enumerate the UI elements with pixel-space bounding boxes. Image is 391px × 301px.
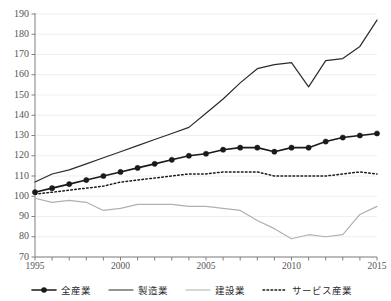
legend-item-2[interactable]: 建設業: [185, 283, 245, 297]
y-axis-tick-label: 110: [3, 170, 29, 181]
series-line-3: [35, 172, 377, 194]
y-axis-tick-label: 80: [3, 230, 29, 241]
series-marker-0: [84, 177, 89, 182]
y-axis-tick-label: 190: [3, 8, 29, 19]
series-marker-0: [135, 165, 140, 170]
y-axis-tick-label: 150: [3, 89, 29, 100]
legend-swatch-icon: [108, 285, 134, 295]
series-marker-0: [272, 149, 277, 154]
series-marker-0: [306, 145, 311, 150]
legend-label: サービス産業: [292, 283, 352, 297]
series-marker-0: [203, 151, 208, 156]
series-marker-0: [152, 161, 157, 166]
series-marker-0: [221, 147, 226, 152]
legend-label: 製造業: [138, 283, 168, 297]
series-marker-0: [323, 139, 328, 144]
series-marker-0: [101, 173, 106, 178]
series-marker-0: [67, 182, 72, 187]
chart-legend: 全産業製造業建設業サービス産業: [0, 279, 382, 301]
series-marker-0: [255, 145, 260, 150]
x-axis-tick-label: 2005: [186, 261, 226, 271]
series-marker-0: [169, 157, 174, 162]
series-line-2: [35, 198, 377, 239]
y-axis-tick-label: 140: [3, 109, 29, 120]
series-marker-0: [289, 145, 294, 150]
x-axis-tick-label: 2000: [101, 261, 141, 271]
series-line-1: [35, 20, 377, 182]
series-marker-0: [340, 135, 345, 140]
y-axis-tick-label: 160: [3, 68, 29, 79]
y-axis-tick-label: 100: [3, 190, 29, 201]
legend-swatch-icon: [185, 285, 211, 295]
series-marker-0: [374, 131, 379, 136]
legend-swatch-icon: [262, 285, 288, 295]
x-axis-tick-label: 1995: [15, 261, 55, 271]
y-axis-tick-label: 130: [3, 129, 29, 140]
legend-item-1[interactable]: 製造業: [108, 283, 168, 297]
y-axis-tick-label: 90: [3, 210, 29, 221]
y-axis-tick-label: 70: [3, 251, 29, 262]
y-axis-tick-label: 180: [3, 28, 29, 39]
series-marker-0: [50, 186, 55, 191]
series-marker-0: [357, 133, 362, 138]
legend-item-0[interactable]: 全産業: [31, 283, 91, 297]
y-axis-tick-label: 170: [3, 48, 29, 59]
legend-label: 全産業: [61, 283, 91, 297]
x-axis-tick-label: 2015: [357, 261, 391, 271]
y-axis-tick-label: 120: [3, 149, 29, 160]
series-marker-0: [238, 145, 243, 150]
series-marker-0: [118, 169, 123, 174]
series-marker-0: [186, 153, 191, 158]
legend-item-3[interactable]: サービス産業: [262, 283, 352, 297]
legend-label: 建設業: [215, 283, 245, 297]
x-axis-tick-label: 2010: [272, 261, 312, 271]
legend-swatch-icon: [31, 285, 57, 295]
